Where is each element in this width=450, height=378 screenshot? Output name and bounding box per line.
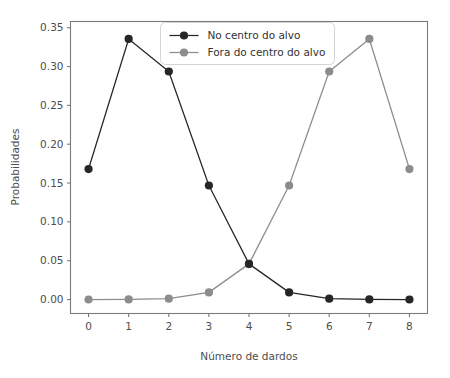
legend-label: Fora do centro do alvo [208, 46, 326, 58]
legend-marker-swatch [180, 48, 188, 56]
data-point-marker [205, 288, 213, 296]
x-tick-label: 7 [366, 320, 373, 332]
y-tick-label: 0.20 [40, 138, 63, 150]
x-tick-label: 0 [85, 320, 92, 332]
data-point-marker [285, 288, 293, 296]
y-tick-label: 0.35 [40, 21, 63, 33]
data-point-marker [165, 67, 173, 75]
legend-label: No centro do alvo [208, 29, 301, 41]
data-point-marker [125, 35, 133, 43]
y-tick-label: 0.05 [40, 254, 63, 266]
x-tick-label: 1 [125, 320, 132, 332]
y-tick-label: 0.10 [40, 215, 63, 227]
legend-marker-swatch [180, 31, 188, 39]
y-axis-title: Probabilidades [9, 129, 21, 206]
y-tick-label: 0.00 [40, 293, 63, 305]
data-point-marker [84, 165, 92, 173]
chart-figure: 0.000.050.100.150.200.250.300.35 0123456… [0, 0, 450, 378]
x-tick-label: 5 [286, 320, 293, 332]
data-point-marker [405, 165, 413, 173]
x-tick-label: 6 [326, 320, 333, 332]
x-tick-label: 3 [206, 320, 213, 332]
data-point-marker [365, 35, 373, 43]
data-point-marker [165, 295, 173, 303]
data-point-marker [405, 295, 413, 303]
x-tick-label: 2 [165, 320, 172, 332]
y-tick-label: 0.30 [40, 60, 63, 72]
chart-legend[interactable]: No centro do alvoFora do centro do alvo [161, 23, 335, 65]
data-point-marker [325, 67, 333, 75]
y-tick-label: 0.25 [40, 99, 63, 111]
data-point-marker [205, 181, 213, 189]
data-point-marker [325, 295, 333, 303]
y-tick-label: 0.15 [40, 177, 63, 189]
x-tick-label: 8 [406, 320, 413, 332]
x-tick-label: 4 [246, 320, 253, 332]
data-point-marker [84, 295, 92, 303]
data-point-marker [245, 260, 253, 268]
data-point-marker [125, 295, 133, 303]
data-point-marker [285, 181, 293, 189]
data-point-marker [365, 295, 373, 303]
line-chart: 0.000.050.100.150.200.250.300.35 0123456… [0, 0, 450, 378]
x-axis-title: Número de dardos [200, 350, 297, 362]
